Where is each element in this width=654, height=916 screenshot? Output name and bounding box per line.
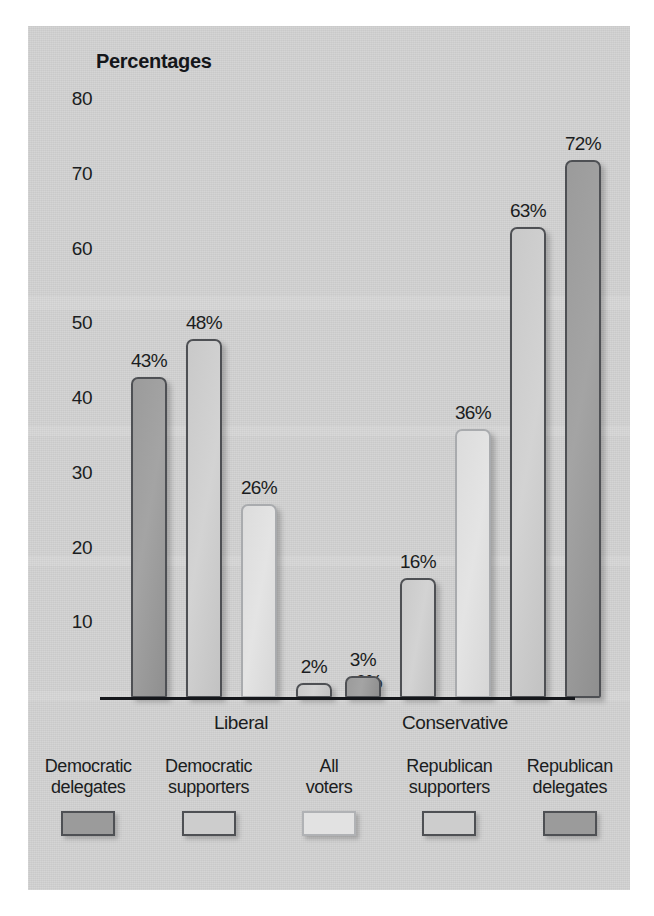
legend-item: All voters — [271, 756, 387, 836]
category-label: Conservative — [375, 712, 535, 734]
bar-value-label: 43% — [119, 350, 179, 372]
bar — [296, 683, 332, 698]
y-tick-label: 40 — [46, 387, 92, 409]
y-tick-label: 70 — [46, 163, 92, 185]
legend-swatch — [302, 811, 356, 836]
category-label: Liberal — [161, 712, 321, 734]
bar-value-label: 26% — [229, 477, 289, 499]
bar — [455, 429, 491, 698]
bar — [186, 339, 222, 698]
bar-value-label: 36% — [443, 402, 503, 424]
legend-item: Republican supporters — [391, 756, 507, 836]
x-axis-line — [100, 697, 575, 700]
bar-value-label: 63% — [498, 200, 558, 222]
legend-swatch — [61, 811, 115, 836]
y-tick-label: 20 — [46, 537, 92, 559]
legend-label: Democratic delegates — [45, 756, 132, 798]
legend-swatch — [182, 811, 236, 836]
legend-label: All voters — [306, 756, 353, 798]
legend-item: Democratic supporters — [151, 756, 267, 836]
legend-item: Democratic delegates — [30, 756, 146, 836]
y-tick-label: 10 — [46, 611, 92, 633]
legend-label: Republican delegates — [527, 756, 613, 798]
bar — [400, 578, 436, 698]
bar-value-label: 72% — [553, 133, 613, 155]
y-tick-label: 30 — [46, 462, 92, 484]
y-tick-label: 60 — [46, 238, 92, 260]
bar — [345, 676, 381, 698]
bar — [241, 504, 277, 698]
bar — [565, 160, 601, 698]
legend-label: Republican supporters — [406, 756, 492, 798]
legend-swatch — [422, 811, 476, 836]
legend-item: Republican delegates — [512, 756, 628, 836]
bar-value-label: 48% — [174, 312, 234, 334]
bar — [510, 227, 546, 698]
y-tick-label: 50 — [46, 312, 92, 334]
legend-label: Democratic supporters — [165, 756, 252, 798]
bar-value-label: 3% — [333, 649, 393, 671]
legend-swatch — [543, 811, 597, 836]
bar-value-label: 16% — [388, 551, 448, 573]
chart-legend: Democratic delegatesDemocratic supporter… — [28, 756, 630, 876]
y-tick-label: 80 — [46, 88, 92, 110]
bar — [131, 377, 167, 698]
